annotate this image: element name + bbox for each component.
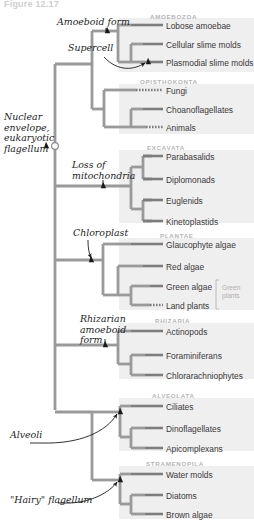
annotation-rhizarian-amoeboid-form: Rhizarian amoeboid form: [80, 314, 126, 346]
group-label-plantae: PLANTAE: [160, 232, 194, 239]
group-label-rhizaria: RHIZARIA: [155, 317, 190, 324]
taxon-foraminiferans: Foraminiferans: [166, 352, 222, 361]
taxon-plasmodial-slime-molds: Plasmodial slime molds: [166, 59, 254, 68]
annotation-chloroplast: Chloroplast: [73, 228, 128, 239]
taxon-euglenids: Euglenids: [166, 197, 203, 206]
taxon-apicomplexans: Apicomplexans: [166, 445, 223, 454]
taxon-fungi: Fungi: [166, 87, 187, 96]
arrow-alveoli: [42, 414, 117, 443]
group-label-stramenopila: STRAMENOPILA: [146, 460, 204, 467]
taxon-brown-algae: Brown algae: [166, 511, 213, 520]
group-label-alveolata: ALVEOLATA: [152, 392, 195, 399]
taxon-lobose-amoebae: Lobose amoebae: [166, 22, 231, 31]
taxon-parabasalids: Parabasalids: [166, 153, 214, 162]
taxon-actinopods: Actinopods: [166, 328, 207, 337]
taxon-chlorarachniophytes: Chlorarachniophytes: [166, 372, 243, 381]
annotation-supercell: Supercell: [68, 43, 113, 54]
bracket-label-green-plants: Green plants: [222, 284, 240, 299]
taxon-green-algae: Green algae: [166, 283, 212, 292]
taxon-diplomonads: Diplomonads: [166, 176, 215, 185]
taxon-ciliates: Ciliates: [166, 403, 193, 412]
annotation-hairy-flagellum: "Hairy" flagellum: [10, 495, 92, 506]
group-label-excavata: EXCAVATA: [147, 144, 185, 151]
annotation-nuclear-envelope: Nuclear envelope, eukaryotic flagellum: [4, 112, 54, 154]
taxon-diatoms: Diatoms: [166, 492, 197, 501]
taxon-red-algae: Red algae: [166, 263, 204, 272]
group-label-opisthokonta: OPISTHOKONTA: [140, 78, 198, 85]
taxon-choanoflagellates: Choanoflagellates: [166, 106, 233, 115]
taxon-glaucophyte-algae: Glaucophyte algae: [166, 241, 236, 250]
taxon-dinoflagellates: Dinoflagellates: [166, 425, 221, 434]
group-label-amoebozoa: AMOEBOZOA: [150, 13, 197, 20]
annotation-loss-of-mitochondria: Loss of mitochondria: [72, 160, 135, 181]
taxon-land-plants: Land plants: [166, 302, 209, 311]
annotation-alveoli: Alveoli: [10, 430, 42, 441]
annotation-amoeboid-form: Amoeboid form: [57, 17, 130, 28]
taxon-kinetoplastids: Kinetoplastids: [166, 218, 218, 227]
arrow-chloroplast: [88, 240, 91, 258]
taxon-cellular-slime-molds: Cellular slime molds: [166, 41, 241, 50]
taxon-water-molds: Water molds: [166, 471, 213, 480]
taxon-animals: Animals: [166, 124, 196, 133]
